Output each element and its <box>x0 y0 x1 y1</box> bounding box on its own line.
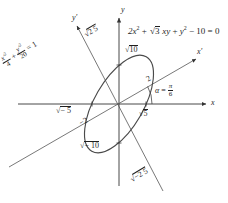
angle-symbol: α <box>155 86 159 95</box>
equation-plus-2: + <box>173 26 178 36</box>
tick-label-x-negative: − 5 <box>55 106 71 115</box>
angle-label: α = π 6 <box>155 83 173 99</box>
equation-term-xy: xy <box>162 26 170 36</box>
equation-tail: − 10 = 0 <box>189 26 219 36</box>
tick-label-x-positive: 5 <box>138 109 148 118</box>
equation-plus-1: + <box>142 26 147 36</box>
equation-term-2x: 2x <box>128 26 137 36</box>
equation-exp-2: 2 <box>184 25 187 31</box>
y-prime-axis-label: y′ <box>72 14 77 22</box>
y-axis-label: y <box>121 6 125 14</box>
x-prime-axis-label: x′ <box>197 48 202 56</box>
equation-sqrt3-icon: 3 <box>149 26 160 36</box>
tick-label-y-negative: − 10 <box>79 141 99 150</box>
x-axis-label: x <box>211 99 215 107</box>
angle-equals: = <box>161 86 166 95</box>
angle-fraction: π 6 <box>168 83 174 99</box>
main-equation: 2x2 + 3 xy + y2 − 10 = 0 <box>128 26 219 36</box>
equation-exp-1: 2 <box>137 25 140 31</box>
tick-label-y-positive: 10 <box>124 45 138 54</box>
figure-canvas: 2x2 + 3 xy + y2 − 10 = 0 x′2 4 + y′2 20 … <box>0 0 228 203</box>
